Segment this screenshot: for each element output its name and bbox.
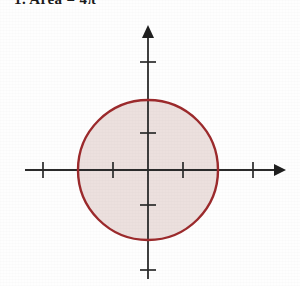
- y-axis-arrow-icon: [142, 25, 154, 38]
- figure-svg: [0, 0, 300, 286]
- x-axis-arrow-icon: [274, 164, 286, 176]
- exercise-heading-text: 1. Area = 4π: [14, 0, 96, 8]
- exercise-heading: 1. Area = 4π: [0, 0, 300, 9]
- figure-circle-area: [0, 0, 300, 286]
